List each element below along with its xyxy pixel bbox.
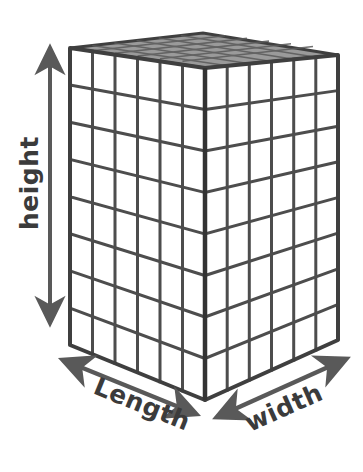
- prism-svg: height Length width: [0, 0, 363, 472]
- height-label: height: [15, 136, 44, 230]
- prism-diagram: height Length width: [0, 0, 363, 472]
- left-face: [70, 48, 205, 400]
- right-face: [205, 55, 338, 400]
